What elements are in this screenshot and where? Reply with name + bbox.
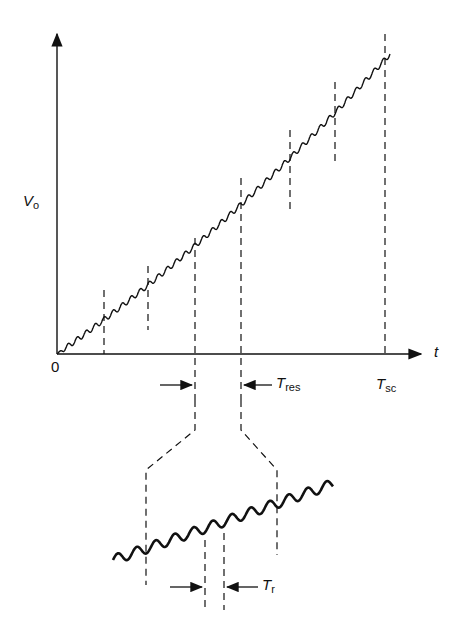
diagram-svg [0, 0, 463, 627]
t-sc-label: Tsc [376, 375, 396, 392]
x-axis-label: t [434, 343, 438, 360]
ramp-signal-curve [57, 54, 390, 354]
t-res-label: Tres [276, 374, 300, 391]
t-r-dashed-markers [205, 533, 224, 610]
y-axis-label: Vo [23, 192, 39, 209]
dashed-markers [104, 34, 385, 400]
ramp-waveform-diagram: Vo 0 t Tres Tsc Tr [0, 0, 463, 627]
origin-label: 0 [51, 358, 59, 375]
zoom-projection-lines [146, 400, 277, 585]
t-r-label: Tr [262, 576, 275, 593]
